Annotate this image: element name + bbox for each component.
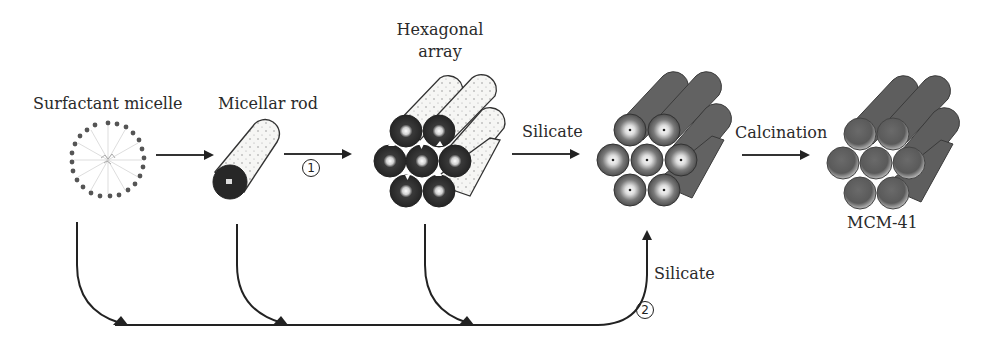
label-calcination: Calcination: [735, 123, 827, 143]
label-mcm-41: MCM-41: [847, 213, 918, 233]
silicate-coated-array-icon: [597, 72, 731, 206]
label-micellar-rod: Micellar rod: [218, 94, 318, 114]
label-hexagonal-array-line1: Hexagonal: [395, 20, 485, 40]
route-2-paths: [77, 222, 647, 325]
route-2-marker: 2: [636, 301, 654, 319]
hexagonal-array-icon: [374, 75, 505, 207]
diagram-svg: [0, 0, 990, 340]
label-hexagonal-array-line2: array: [395, 42, 485, 62]
mcm-41-icon: [827, 76, 959, 209]
label-silicate-top: Silicate: [522, 122, 583, 142]
route-1-marker: 1: [302, 159, 320, 177]
surfactant-micelle-icon: [70, 121, 147, 199]
label-silicate-bottom: Silicate: [654, 264, 715, 284]
micellar-rod-icon: [213, 120, 279, 199]
label-surfactant-micelle: Surfactant micelle: [33, 94, 183, 114]
route-2-junction-arrowheads: [113, 316, 474, 325]
mcm41-formation-diagram: Surfactant micelle Micellar rod Hexagona…: [0, 0, 990, 340]
